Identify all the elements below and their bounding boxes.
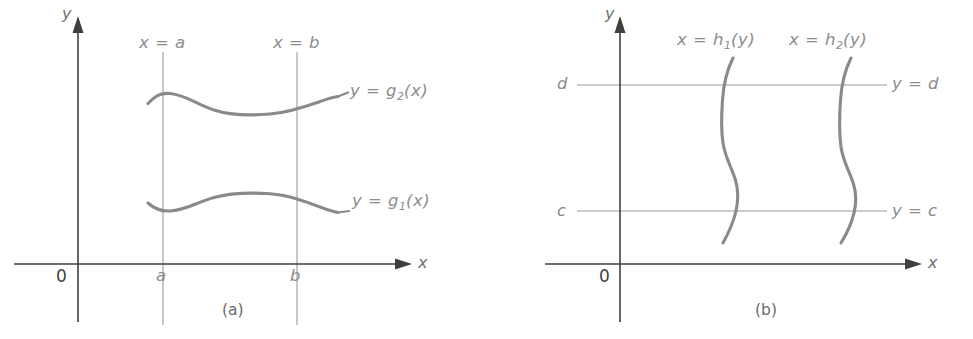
label-x-equals-b: x = b — [273, 35, 320, 52]
label-curve-g2: y = g2(x) — [350, 83, 428, 103]
label-x-equals-b-value: b — [309, 33, 320, 52]
panel-a-graphics — [0, 0, 487, 339]
curve-h2 — [840, 58, 856, 243]
label-curve-h2-fn: h — [825, 30, 836, 49]
label-curve-g1-arg: (x) — [406, 191, 430, 210]
panel-b-x-axis-label: x — [928, 255, 937, 271]
label-curve-h1-operator: = — [693, 30, 707, 49]
panel-a-y-axis-label: y — [62, 6, 71, 22]
leader-g2 — [338, 93, 348, 97]
label-curve-g2-operator: = — [366, 81, 380, 100]
label-curve-h2-arg: (y) — [843, 30, 867, 49]
panel-a-tick-a: a — [156, 268, 166, 285]
y-axis-arrowhead — [73, 16, 84, 33]
label-y-equals-d: y = d — [892, 76, 939, 93]
panel-a-x-axis-label: x — [418, 255, 427, 271]
label-curve-h2-prefix: x — [789, 30, 799, 49]
label-curve-g2-subscript: 2 — [397, 90, 404, 103]
leader-g1 — [338, 211, 349, 213]
label-x-equals-a-operator: = — [155, 33, 169, 52]
label-curve-h1-arg: (y) — [731, 30, 755, 49]
label-curve-g1-fn: g — [388, 191, 399, 210]
figure-container: y x 0 a b x = a x = b y = g2(x) y = g1(x… — [0, 0, 973, 339]
panel-b-tick-c: c — [557, 203, 566, 220]
panel-b-origin-label: 0 — [599, 268, 610, 285]
curve-h1 — [722, 58, 738, 243]
x-axis-arrowhead — [395, 259, 412, 270]
label-x-equals-b-operator: = — [289, 33, 303, 52]
label-x-equals-a: x = a — [139, 35, 186, 52]
label-curve-g1-operator: = — [368, 191, 382, 210]
label-curve-g2-prefix: y — [350, 81, 360, 100]
panel-a-origin-label: 0 — [56, 268, 67, 285]
label-curve-h1-subscript: 1 — [724, 39, 731, 52]
label-curve-g2-arg: (x) — [404, 81, 428, 100]
panel-a: y x 0 a b x = a x = b y = g2(x) y = g1(x… — [0, 0, 487, 339]
label-curve-h2-subscript: 2 — [836, 39, 843, 52]
panel-a-tick-b: b — [290, 268, 300, 285]
panel-b-y-axis-label: y — [605, 6, 614, 22]
label-curve-g1-prefix: y — [352, 191, 362, 210]
label-curve-h1-fn: h — [713, 30, 724, 49]
label-curve-h1-prefix: x — [677, 30, 687, 49]
curve-g2 — [148, 93, 338, 115]
label-curve-h2-operator: = — [805, 30, 819, 49]
x-axis-arrowhead — [905, 259, 922, 270]
label-curve-h1: x = h1(y) — [677, 32, 755, 52]
panel-b: y x 0 d c y = d y = c x = h1(y) x = h2(y… — [487, 0, 973, 339]
label-curve-g1: y = g1(x) — [352, 193, 430, 213]
curve-g1 — [148, 193, 338, 212]
panel-a-caption: (a) — [222, 303, 244, 319]
label-curve-g1-subscript: 1 — [399, 200, 406, 213]
panel-b-tick-d: d — [557, 76, 567, 93]
label-x-equals-b-var: x — [273, 33, 283, 52]
label-y-equals-c: y = c — [892, 203, 938, 220]
label-curve-g2-fn: g — [386, 81, 397, 100]
label-x-equals-a-value: a — [175, 33, 186, 52]
label-curve-h2: x = h2(y) — [789, 32, 867, 52]
y-axis-arrowhead — [615, 16, 626, 33]
label-x-equals-a-var: x — [139, 33, 149, 52]
panel-b-caption: (b) — [755, 303, 777, 319]
